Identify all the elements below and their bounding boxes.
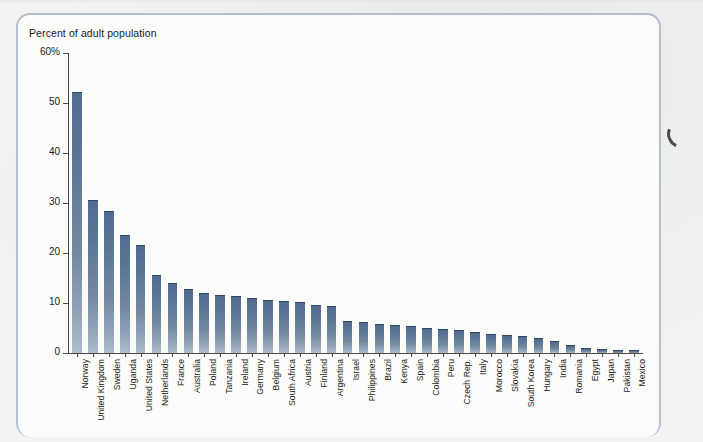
bar (454, 330, 464, 353)
bar (470, 332, 480, 353)
x-axis-label: Colombia (431, 359, 441, 396)
y-axis-tick-label: 30 (49, 196, 60, 207)
x-axis-tick-mark (586, 353, 587, 357)
bar-slot (419, 53, 435, 353)
x-axis-tick-mark (252, 353, 253, 357)
x-axis-tick-mark (188, 353, 189, 357)
bar-slot (578, 53, 594, 353)
x-axis-tick-mark (284, 353, 285, 357)
x-axis-tick-mark (204, 353, 205, 357)
bar (104, 211, 114, 353)
x-axis-label: Brazil (383, 359, 393, 381)
x-axis-tick-mark (125, 353, 126, 357)
bar (184, 289, 194, 354)
x-axis-label: Israel (351, 359, 361, 380)
bar (311, 305, 321, 354)
bar (566, 345, 576, 354)
y-axis-tick-label: 0 (54, 346, 60, 357)
bar-slot (499, 53, 515, 353)
x-axis-label: Mexico (637, 359, 647, 387)
bar-slot (133, 53, 149, 353)
x-axis-tick-mark (634, 353, 635, 357)
x-axis-label: Japan (606, 359, 616, 383)
x-axis-tick-mark (395, 353, 396, 357)
bar-slot (69, 53, 85, 353)
x-axis-label: Peru (446, 359, 456, 377)
x-axis-label: Hungary (542, 359, 552, 392)
x-axis-label: Czech Rep. (462, 359, 472, 404)
x-axis-label: Pakistan (622, 359, 632, 392)
bar (406, 326, 416, 353)
x-axis-tick-mark (141, 353, 142, 357)
y-axis-tick-label: 50 (49, 96, 60, 107)
x-axis-tick-mark (379, 353, 380, 357)
bar (550, 341, 560, 353)
bar-slot (626, 53, 642, 353)
x-axis-label: Romania (574, 359, 584, 394)
x-axis-tick-mark (475, 353, 476, 357)
bar-slot (165, 53, 181, 353)
bar-slot (562, 53, 578, 353)
bar (486, 334, 496, 354)
bar-slot (180, 53, 196, 353)
chart-axis-title: Percent of adult population (29, 27, 157, 39)
y-axis-tick-label: 60% (40, 46, 60, 57)
x-axis-tick-mark (77, 353, 78, 357)
x-axis-label: Uganda (128, 359, 138, 389)
bar (390, 325, 400, 354)
x-axis-tick-mark (602, 353, 603, 357)
x-axis-tick-mark (491, 353, 492, 357)
bar-slot (260, 53, 276, 353)
bar-slot (356, 53, 372, 353)
bar-slot (483, 53, 499, 353)
y-axis-tick-label: 20 (49, 246, 60, 257)
x-axis-label: Philippines (367, 359, 377, 401)
x-axis-label: Belgium (271, 359, 281, 390)
x-axis-label: Ireland (240, 359, 250, 386)
bar (502, 335, 512, 353)
bar-slot (292, 53, 308, 353)
x-axis-tick-mark (93, 353, 94, 357)
bar (120, 235, 130, 354)
bar (375, 324, 385, 354)
bar-slot (435, 53, 451, 353)
bar-slot (85, 53, 101, 353)
y-axis-tick-label: 10 (49, 296, 60, 307)
x-axis-label: Sweden (112, 359, 122, 390)
x-axis-tick-mark (268, 353, 269, 357)
bar-slot (196, 53, 212, 353)
bar (199, 293, 209, 354)
bar (263, 300, 273, 353)
bar-slot (324, 53, 340, 353)
x-axis-tick-mark (220, 353, 221, 357)
bar-slot (451, 53, 467, 353)
x-axis-label: Spain (415, 359, 425, 381)
x-axis-tick-mark (332, 353, 333, 357)
bar (152, 275, 162, 353)
bar-slot (547, 53, 563, 353)
x-axis-label: Slovakia (510, 359, 520, 392)
bar (359, 322, 369, 353)
x-axis-tick-mark (348, 353, 349, 357)
bar-slot (228, 53, 244, 353)
bar-slot (387, 53, 403, 353)
x-axis-label: Finland (319, 359, 329, 388)
bar-chart: Percent of adult population 010203040506… (0, 0, 703, 442)
bar (88, 200, 98, 353)
x-axis-tick-mark (300, 353, 301, 357)
bar-slot (101, 53, 117, 353)
x-axis-line (68, 353, 643, 354)
bar-slot (467, 53, 483, 353)
bar (215, 295, 225, 353)
bar-slot (340, 53, 356, 353)
bar-slot (403, 53, 419, 353)
x-axis-tick-mark (539, 353, 540, 357)
x-axis-label: United States (144, 359, 154, 411)
x-axis-label: India (558, 359, 568, 378)
x-axis-tick-mark (236, 353, 237, 357)
x-axis-label: South Korea (526, 359, 536, 407)
x-axis-tick-mark (554, 353, 555, 357)
x-axis-tick-mark (507, 353, 508, 357)
bar (343, 321, 353, 353)
bar (279, 301, 289, 354)
